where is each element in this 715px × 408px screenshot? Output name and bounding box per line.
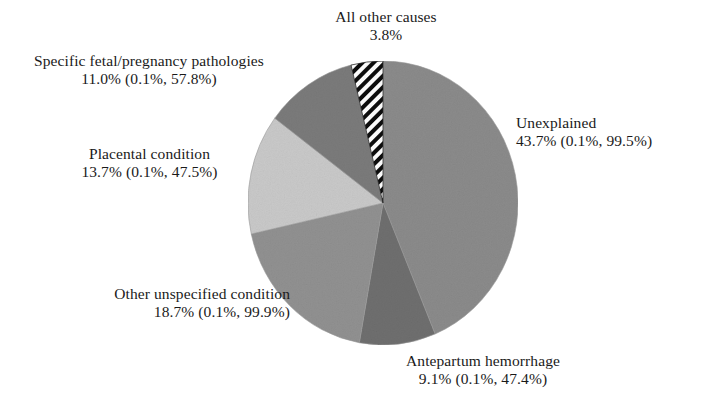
- slice-label-antepartum-hemorrhage: Antepartum hemorrhage 9.1% (0.1%, 47.4%): [352, 352, 614, 388]
- slice-label-other-unspecified-value: 18.7% (0.1%, 99.9%): [20, 303, 290, 321]
- slice-label-other-unspecified-name: Other unspecified condition: [20, 285, 290, 303]
- slice-label-all-other-causes-value: 3.8%: [296, 26, 476, 44]
- slice-label-antepartum-name: Antepartum hemorrhage: [352, 352, 614, 370]
- slice-label-other-unspecified-condition: Other unspecified condition 18.7% (0.1%,…: [20, 285, 290, 321]
- slice-label-specific-fetal-name: Specific fetal/pregnancy pathologies: [4, 52, 294, 70]
- pie-chart-figure: All other causes 3.8% Specific fetal/pre…: [0, 0, 715, 408]
- slice-label-antepartum-value: 9.1% (0.1%, 47.4%): [352, 370, 614, 388]
- slice-label-specific-fetal-value: 11.0% (0.1%, 57.8%): [4, 70, 294, 88]
- slice-label-all-other-causes: All other causes 3.8%: [296, 8, 476, 44]
- slice-label-unexplained-name: Unexplained: [516, 114, 714, 132]
- slice-label-unexplained: Unexplained 43.7% (0.1%, 99.5%): [516, 114, 714, 150]
- slice-label-placental-value: 13.7% (0.1%, 47.5%): [42, 163, 257, 181]
- slice-label-placental-condition: Placental condition 13.7% (0.1%, 47.5%): [42, 145, 257, 181]
- slice-label-placental-name: Placental condition: [42, 145, 257, 163]
- slice-label-unexplained-value: 43.7% (0.1%, 99.5%): [516, 132, 714, 150]
- slice-label-specific-fetal-pregnancy-pathologies: Specific fetal/pregnancy pathologies 11.…: [4, 52, 294, 88]
- slice-label-all-other-causes-name: All other causes: [296, 8, 476, 26]
